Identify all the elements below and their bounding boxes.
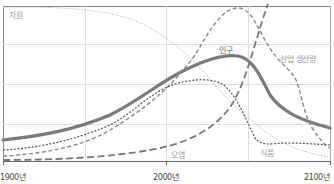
series-pollution bbox=[3, 4, 268, 160]
plot-area bbox=[0, 0, 334, 184]
label-pollution: 오염 bbox=[171, 149, 184, 160]
x-tick-2100: 2100년 bbox=[304, 171, 329, 182]
label-population: 인구 bbox=[219, 44, 232, 55]
label-resources: 자원 bbox=[9, 9, 22, 20]
x-tick-1900: 1900년 bbox=[0, 171, 25, 182]
label-food: 식품 bbox=[260, 147, 273, 158]
label-industrial-output: 산업 생산량 bbox=[280, 53, 316, 64]
gridlines bbox=[3, 6, 331, 161]
chart: 자원 인구 산업 생산량 식품 오염 1900년 2000년 2100년 bbox=[0, 0, 334, 184]
x-tick-2000: 2000년 bbox=[153, 171, 178, 182]
